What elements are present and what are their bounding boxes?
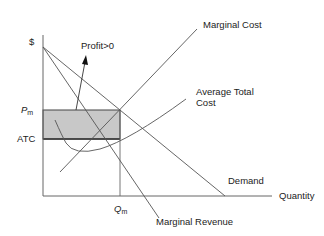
profit-area (43, 110, 120, 139)
y-axis-label: $ (29, 36, 34, 47)
average-total-cost-label: Average Total Cost (196, 86, 254, 108)
marginal-cost-label: Marginal Cost (203, 19, 262, 30)
x-axis-label: Quantity (279, 190, 314, 201)
profit-label: Profit>0 (81, 40, 114, 51)
profit-arrow-head (82, 55, 88, 65)
monopoly-diagram (0, 0, 324, 236)
atc-price-label: ATC (17, 133, 35, 144)
qm-label-sub: m (121, 208, 127, 215)
qm-label: Qm (114, 203, 127, 217)
pm-label-sub: m (27, 109, 33, 116)
pm-label: Pm (21, 104, 33, 118)
demand-label: Demand (228, 175, 264, 186)
atc-label-line1: Average Total (196, 86, 254, 97)
marginal-revenue-label: Marginal Revenue (156, 216, 233, 227)
atc-label-line2: Cost (196, 97, 254, 108)
